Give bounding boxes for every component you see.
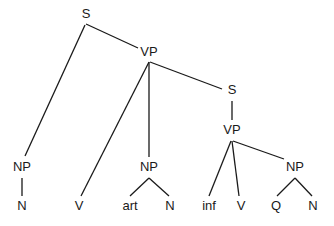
edge-vp2-np3 <box>233 141 284 159</box>
tree-edges <box>22 24 312 196</box>
node-vp1: VP <box>140 44 157 59</box>
edge-s1-np1 <box>25 25 85 156</box>
tree-labels: SVPNPNVNPartNSVPinfVNPQN <box>13 6 318 213</box>
node-n2: N <box>165 198 174 213</box>
syntax-tree-diagram: SVPNPNVNPartNSVPinfVNPQN <box>0 0 334 226</box>
node-v1: V <box>75 198 84 213</box>
node-v2: V <box>237 198 246 213</box>
edge-vp1-v1 <box>81 62 149 196</box>
node-np2: NP <box>140 159 158 174</box>
node-np1: NP <box>13 159 31 174</box>
edge-np3-n3 <box>295 178 312 196</box>
node-s2: S <box>228 82 237 97</box>
node-art: art <box>122 198 138 213</box>
edge-vp2-v2 <box>232 141 239 196</box>
node-inf: inf <box>202 198 216 213</box>
node-q: Q <box>271 198 281 213</box>
edge-np3-q <box>277 178 295 196</box>
edge-np2-art <box>130 178 149 196</box>
edge-vp2-inf <box>209 141 231 196</box>
node-s1: S <box>82 6 91 21</box>
node-vp2: VP <box>223 122 240 137</box>
node-n1: N <box>17 198 26 213</box>
edge-vp1-s2 <box>150 62 222 89</box>
tree-canvas: SVPNPNVNPartNSVPinfVNPQN <box>0 0 334 226</box>
edge-np2-n2 <box>149 178 169 196</box>
node-np3: NP <box>286 159 304 174</box>
edge-s1-vp1 <box>86 24 138 48</box>
node-n3: N <box>308 198 317 213</box>
